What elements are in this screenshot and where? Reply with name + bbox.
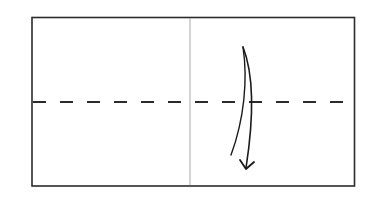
origami-diagram [0,0,379,198]
